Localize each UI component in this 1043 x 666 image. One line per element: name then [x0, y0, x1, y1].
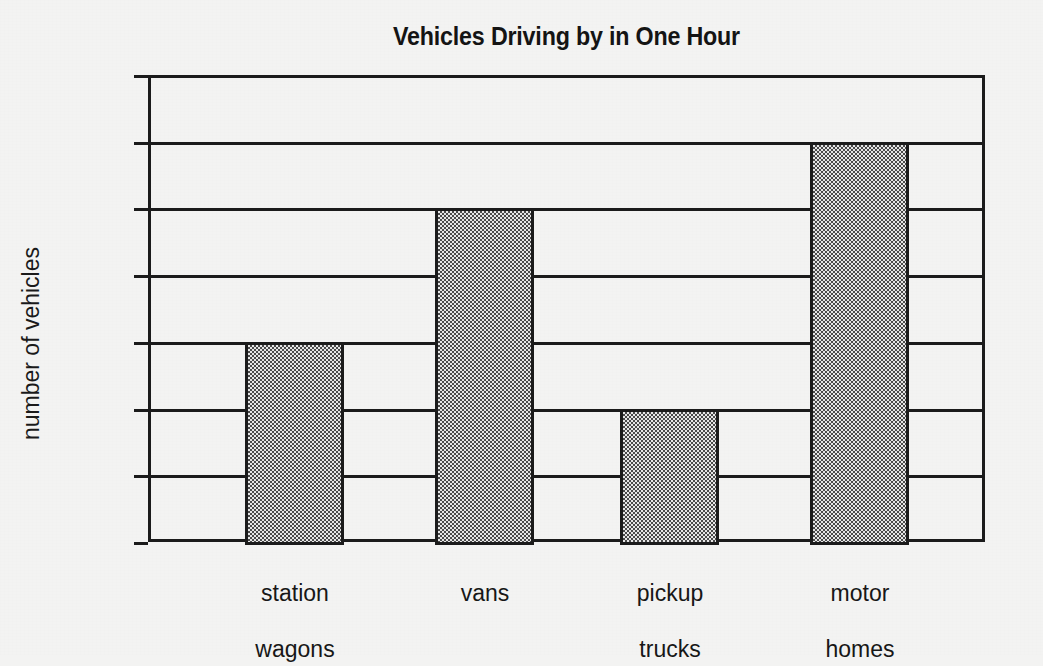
x-label-line-1: motor [780, 579, 940, 607]
bar-pickup-trucks[interactable] [620, 409, 719, 545]
y-tick-mark-70 [134, 75, 148, 78]
x-label-line-2: wagons [215, 635, 375, 663]
x-label-vans: vans [405, 551, 565, 635]
bar-motor-homes[interactable] [810, 142, 909, 545]
y-axis-title: number of vehicles [18, 214, 45, 474]
chart-title: Vehicles Driving by in One Hour [177, 22, 955, 51]
y-tick-mark-30 [134, 342, 148, 345]
bar-vans[interactable] [435, 208, 534, 545]
x-label-pickup-trucks: pickup trucks [590, 551, 750, 666]
bar-station-wagons[interactable] [245, 342, 344, 545]
y-tick-mark-10 [134, 475, 148, 478]
x-label-motor-homes: motor homes [780, 551, 940, 666]
y-tick-mark-50 [134, 208, 148, 211]
y-tick-mark-20 [134, 409, 148, 412]
y-tick-mark-40 [134, 275, 148, 278]
y-tick-mark-0 [134, 542, 148, 545]
x-label-line-2: homes [780, 635, 940, 663]
x-label-line-1: vans [405, 579, 565, 607]
x-label-station-wagons: station wagons [215, 551, 375, 666]
x-label-line-1: pickup [590, 579, 750, 607]
y-tick-mark-60 [134, 142, 148, 145]
x-label-line-1: station [215, 579, 375, 607]
x-label-line-2: trucks [590, 635, 750, 663]
